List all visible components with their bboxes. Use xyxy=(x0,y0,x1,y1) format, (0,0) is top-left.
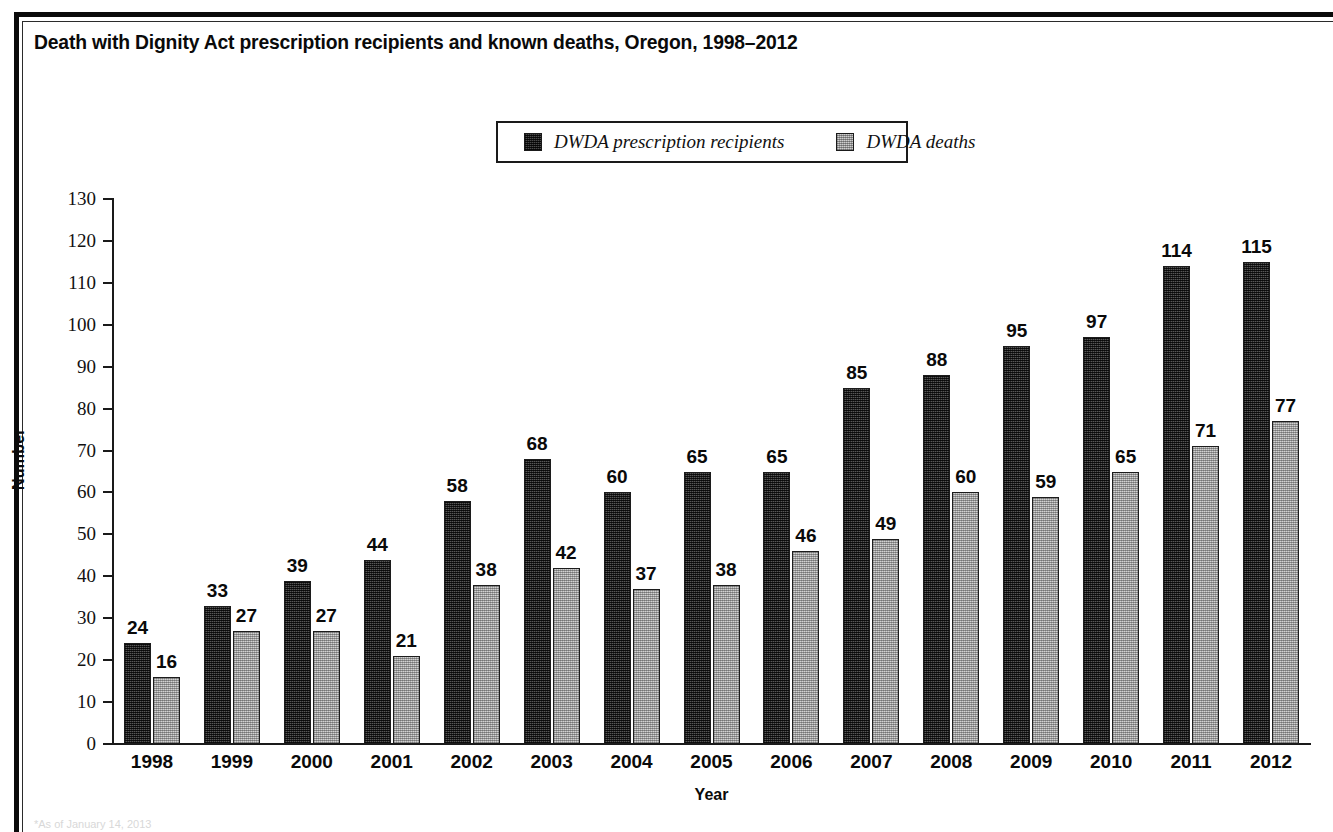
bar-dwda-deaths-2010 xyxy=(1112,472,1139,745)
bar-dwda-deaths-2002 xyxy=(473,585,500,744)
bar-dwda-prescription-recipients-2002 xyxy=(444,501,471,744)
x-axis-tick-label-2006: 2006 xyxy=(751,752,831,771)
bar-value-label: 16 xyxy=(144,652,189,671)
bar-dwda-deaths-2008 xyxy=(952,492,979,744)
y-axis-tick-mark xyxy=(103,240,112,242)
y-axis-tick-label: 40 xyxy=(36,565,96,587)
bar-dwda-prescription-recipients-2010 xyxy=(1083,337,1110,744)
legend-label-dwda-deaths: DWDA deaths xyxy=(866,131,975,153)
x-axis-tick-label-2012: 2012 xyxy=(1231,752,1311,771)
bar-value-label: 27 xyxy=(304,606,349,625)
bar-value-label: 114 xyxy=(1154,241,1199,260)
bar-dwda-prescription-recipients-2012 xyxy=(1243,262,1270,744)
bar-value-label: 65 xyxy=(675,447,720,466)
bar-value-label: 88 xyxy=(914,350,959,369)
y-axis-tick-label: 10 xyxy=(36,691,96,713)
bar-value-label: 49 xyxy=(863,514,908,533)
figure-frame-inner-left-rule xyxy=(22,21,23,832)
y-axis-tick-mark xyxy=(103,450,112,452)
y-axis-tick-label: 60 xyxy=(36,481,96,503)
bar-value-label: 38 xyxy=(464,560,509,579)
bar-dwda-prescription-recipients-2007 xyxy=(843,388,870,744)
bar-value-label: 71 xyxy=(1183,421,1228,440)
bar-value-label: 46 xyxy=(783,526,828,545)
bar-value-label: 37 xyxy=(624,564,669,583)
x-axis-tick-label-2007: 2007 xyxy=(831,752,911,771)
bar-dwda-prescription-recipients-2003 xyxy=(524,459,551,744)
bar-value-label: 59 xyxy=(1023,472,1068,491)
y-axis-tick-label: 130 xyxy=(36,188,96,210)
bar-dwda-deaths-2001 xyxy=(393,656,420,744)
x-axis-tick-label-2003: 2003 xyxy=(512,752,592,771)
y-axis-tick-mark xyxy=(103,659,112,661)
bar-dwda-prescription-recipients-2005 xyxy=(684,472,711,745)
bar-value-label: 44 xyxy=(355,535,400,554)
dark-hatch-swatch-icon xyxy=(524,133,542,151)
figure-frame-inner-top-rule xyxy=(22,21,1333,22)
bar-dwda-deaths-2004 xyxy=(633,589,660,744)
figure-frame-left-rule xyxy=(14,12,19,832)
bar-value-label: 77 xyxy=(1263,396,1308,415)
bar-value-label: 58 xyxy=(435,476,480,495)
x-axis-tick-label-2001: 2001 xyxy=(352,752,432,771)
bar-dwda-deaths-1999 xyxy=(233,631,260,744)
bar-dwda-prescription-recipients-2011 xyxy=(1163,266,1190,744)
x-axis-tick-label-2004: 2004 xyxy=(592,752,672,771)
bar-value-label: 39 xyxy=(275,556,320,575)
x-axis-tick-label-2005: 2005 xyxy=(672,752,752,771)
bar-value-label: 21 xyxy=(384,631,429,650)
bar-value-label: 24 xyxy=(115,618,160,637)
bar-dwda-deaths-2012 xyxy=(1272,421,1299,744)
bar-value-label: 42 xyxy=(544,543,589,562)
bar-value-label: 85 xyxy=(834,363,879,382)
bar-dwda-deaths-2011 xyxy=(1192,446,1219,744)
y-axis-tick-mark xyxy=(103,324,112,326)
x-axis-tick-label-2002: 2002 xyxy=(432,752,512,771)
x-axis-tick-label-2000: 2000 xyxy=(272,752,352,771)
y-axis-tick-label: 100 xyxy=(36,314,96,336)
x-axis-tick-label-2009: 2009 xyxy=(991,752,1071,771)
legend-label-prescription-recipients: DWDA prescription recipients xyxy=(554,131,784,153)
bar-value-label: 60 xyxy=(943,467,988,486)
bar-value-label: 27 xyxy=(224,606,269,625)
x-axis-tick-label-1999: 1999 xyxy=(192,752,272,771)
y-axis-tick-label: 120 xyxy=(36,230,96,252)
y-axis-title: Number xyxy=(10,428,28,490)
bar-dwda-deaths-2005 xyxy=(713,585,740,744)
y-axis-tick-mark xyxy=(103,617,112,619)
y-axis-tick-label: 50 xyxy=(36,523,96,545)
chart-legend: DWDA prescription recipients DWDA deaths xyxy=(496,121,908,163)
y-axis-tick-label: 0 xyxy=(36,733,96,755)
y-axis-tick-mark xyxy=(103,743,112,745)
bar-dwda-prescription-recipients-2006 xyxy=(763,472,790,745)
y-axis-tick-mark xyxy=(103,491,112,493)
x-axis-tick-label-2008: 2008 xyxy=(911,752,991,771)
chart-figure: Death with Dignity Act prescription reci… xyxy=(0,0,1333,832)
chart-title: Death with Dignity Act prescription reci… xyxy=(34,30,1138,54)
x-axis-tick-label-2010: 2010 xyxy=(1071,752,1151,771)
figure-frame-top-rule xyxy=(14,12,1333,17)
y-axis-tick-label: 90 xyxy=(36,356,96,378)
y-axis-tick-mark xyxy=(103,701,112,703)
x-axis-title: Year xyxy=(112,786,1311,804)
bar-dwda-deaths-2006 xyxy=(792,551,819,744)
y-axis-tick-mark xyxy=(103,282,112,284)
bar-value-label: 97 xyxy=(1074,312,1119,331)
bar-dwda-deaths-2007 xyxy=(872,539,899,744)
y-axis-tick-mark xyxy=(103,408,112,410)
bar-value-label: 68 xyxy=(515,434,560,453)
bar-value-label: 33 xyxy=(195,581,240,600)
bar-dwda-deaths-2009 xyxy=(1032,497,1059,744)
y-axis-tick-mark xyxy=(103,198,112,200)
bar-dwda-deaths-2003 xyxy=(553,568,580,744)
x-axis-tick-label-2011: 2011 xyxy=(1151,752,1231,771)
plot-area: 2416332739274421583868426037653865468549… xyxy=(112,199,1311,744)
bar-dwda-prescription-recipients-1999 xyxy=(204,606,231,744)
y-axis-tick-label: 20 xyxy=(36,649,96,671)
bar-dwda-prescription-recipients-2004 xyxy=(604,492,631,744)
y-axis-tick-label: 80 xyxy=(36,398,96,420)
x-axis-tick-label-1998: 1998 xyxy=(112,752,192,771)
figure-footnote: *As of January 14, 2013 xyxy=(34,818,151,830)
bar-dwda-prescription-recipients-2001 xyxy=(364,560,391,744)
bar-value-label: 95 xyxy=(994,321,1039,340)
